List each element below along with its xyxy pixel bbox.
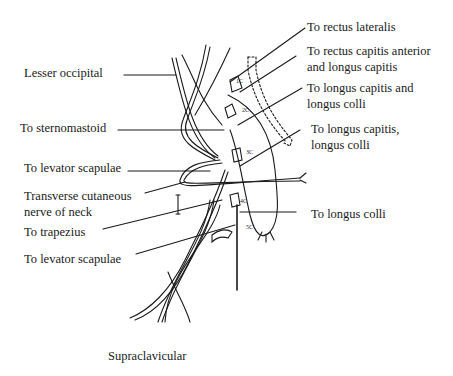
label-to-longus-capitis-and-colli: To longus capitis and longus colli — [307, 80, 413, 112]
label-lesser-occipital: Lesser occipital — [24, 65, 103, 81]
svg-text:4C: 4C — [240, 198, 247, 204]
label-to-sternomastoid: To sternomastoid — [20, 120, 106, 136]
label-to-trapezius: To trapezius — [24, 224, 85, 240]
svg-text:2C: 2C — [242, 107, 249, 113]
label-transverse-cutaneous-nerve: Transverse cutaneous nerve of neck — [24, 188, 132, 220]
svg-text:1C: 1C — [236, 78, 243, 84]
svg-text:3C: 3C — [246, 149, 253, 155]
label-to-rectus-capitis-anterior: To rectus capitis anterior and longus ca… — [307, 43, 431, 75]
label-to-rectus-lateralis: To rectus lateralis — [307, 19, 396, 35]
label-supraclavicular: Supraclavicular — [108, 348, 186, 364]
svg-text:5C: 5C — [246, 224, 253, 230]
label-to-levator-scapulae-lower: To levator scapulae — [24, 251, 121, 267]
label-to-longus-capitis-colli: To longus capitis, longus colli — [311, 121, 399, 153]
label-to-longus-colli: To longus colli — [311, 206, 386, 222]
label-to-levator-scapulae-upper: To levator scapulae — [24, 160, 121, 176]
